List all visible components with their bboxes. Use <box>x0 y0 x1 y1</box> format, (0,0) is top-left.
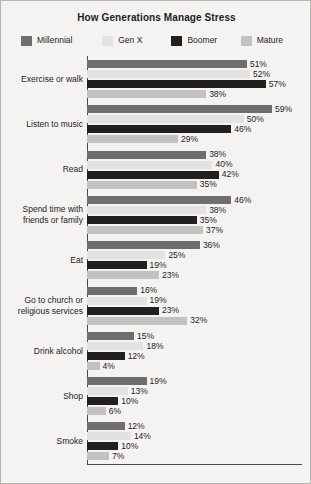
bar-value-label: 6% <box>109 407 121 416</box>
bar-millennial[interactable] <box>87 60 247 68</box>
stress-management-bar-chart: How Generations Manage Stress Millennial… <box>0 0 311 484</box>
legend-item-label: Gen X <box>118 36 142 45</box>
category-label: Smoke <box>1 436 83 447</box>
legend-swatch-icon <box>102 36 113 46</box>
bar-millennial[interactable] <box>87 105 272 113</box>
bar-millennial[interactable] <box>87 151 206 159</box>
bar-mature[interactable] <box>87 181 197 189</box>
bar-gen-x[interactable] <box>87 206 206 214</box>
bar-millennial[interactable] <box>87 377 147 385</box>
bar-millennial[interactable] <box>87 241 200 249</box>
plot-area: 51%52%57%38%59%50%46%29%38%40%42%35%46%3… <box>87 56 310 464</box>
bar-mature[interactable] <box>87 90 206 98</box>
bar-gen-x[interactable] <box>87 387 128 395</box>
bar-gen-x[interactable] <box>87 432 131 440</box>
bar-millennial[interactable] <box>87 287 137 295</box>
bar-mature[interactable] <box>87 452 109 460</box>
bar-row: 12% <box>87 352 145 360</box>
bar-group: 15%18%12%4% <box>87 332 310 370</box>
bar-row: 19% <box>87 261 167 269</box>
category-label-line: Shop <box>1 391 83 402</box>
bar-value-label: 10% <box>121 397 138 406</box>
legend-swatch-icon <box>21 36 32 46</box>
bar-row: 35% <box>87 181 217 189</box>
bar-millennial[interactable] <box>87 422 125 430</box>
bar-boomer[interactable] <box>87 216 197 224</box>
bar-row: 23% <box>87 307 179 315</box>
bar-row: 42% <box>87 171 239 179</box>
bar-value-label: 46% <box>234 125 251 134</box>
bar-row: 32% <box>87 317 207 325</box>
bar-boomer[interactable] <box>87 307 159 315</box>
bar-gen-x[interactable] <box>87 342 143 350</box>
category-label: Listen to music <box>1 119 83 130</box>
bar-value-label: 51% <box>250 60 267 69</box>
bar-mature[interactable] <box>87 317 187 325</box>
bar-boomer[interactable] <box>87 261 147 269</box>
bar-gen-x[interactable] <box>87 115 244 123</box>
bar-row: 35% <box>87 216 217 224</box>
bar-mature[interactable] <box>87 226 203 234</box>
bar-mature[interactable] <box>87 135 178 143</box>
bar-value-label: 36% <box>203 241 220 250</box>
bar-row: 38% <box>87 90 226 98</box>
bar-value-label: 59% <box>275 105 292 114</box>
bar-gen-x[interactable] <box>87 70 250 78</box>
bar-millennial[interactable] <box>87 332 134 340</box>
bar-mature[interactable] <box>87 271 159 279</box>
bar-boomer[interactable] <box>87 397 118 405</box>
bar-mature[interactable] <box>87 407 106 415</box>
bar-value-label: 38% <box>209 90 226 99</box>
legend-item-gen-x[interactable]: Gen X <box>102 34 171 47</box>
chart-title: How Generations Manage Stress <box>1 12 311 23</box>
bar-row: 18% <box>87 342 163 350</box>
bar-gen-x[interactable] <box>87 251 165 259</box>
legend-item-mature[interactable]: Mature <box>241 34 296 47</box>
bar-boomer[interactable] <box>87 171 219 179</box>
bar-mature[interactable] <box>87 362 100 370</box>
category-label: Shop <box>1 391 83 402</box>
bar-value-label: 50% <box>247 115 264 124</box>
category-label: Spend time withfriends or family <box>1 204 83 225</box>
bar-boomer[interactable] <box>87 442 118 450</box>
bar-boomer[interactable] <box>87 352 125 360</box>
category-label-column: Exercise or walkListen to musicReadSpend… <box>1 56 83 464</box>
category-label-line: Go to church or <box>1 295 83 306</box>
bar-boomer[interactable] <box>87 80 266 88</box>
bar-millennial[interactable] <box>87 196 231 204</box>
bar-row: 4% <box>87 362 115 370</box>
bar-row: 13% <box>87 387 148 395</box>
bar-row: 50% <box>87 115 264 123</box>
bar-group: 38%40%42%35% <box>87 151 310 189</box>
bar-group: 59%50%46%29% <box>87 105 310 143</box>
legend-item-label: Mature <box>257 36 283 45</box>
bar-row: 40% <box>87 161 232 169</box>
bar-value-label: 32% <box>190 316 207 325</box>
bar-boomer[interactable] <box>87 125 231 133</box>
bar-gen-x[interactable] <box>87 161 212 169</box>
bar-group: 51%52%57%38% <box>87 60 310 98</box>
bar-value-label: 38% <box>209 150 226 159</box>
bar-group: 19%13%10%6% <box>87 377 310 415</box>
bar-row: 19% <box>87 377 167 385</box>
bar-row: 16% <box>87 287 157 295</box>
bar-value-label: 57% <box>269 80 286 89</box>
bar-value-label: 35% <box>200 216 217 225</box>
category-label: Eat <box>1 255 83 266</box>
bar-row: 57% <box>87 80 286 88</box>
bar-row: 37% <box>87 226 223 234</box>
bar-value-label: 13% <box>131 387 148 396</box>
bar-row: 10% <box>87 397 138 405</box>
bar-row: 29% <box>87 135 198 143</box>
bar-value-label: 19% <box>150 261 167 270</box>
bar-gen-x[interactable] <box>87 297 147 305</box>
category-label-line: Eat <box>1 255 83 266</box>
legend-item-boomer[interactable]: Boomer <box>171 34 240 47</box>
bar-value-label: 19% <box>150 296 167 305</box>
legend-swatch-icon <box>171 36 182 46</box>
legend-item-millennial[interactable]: Millennial <box>21 34 102 47</box>
category-label-line: Drink alcohol <box>1 346 83 357</box>
bar-row: 51% <box>87 60 267 68</box>
bar-value-label: 29% <box>181 135 198 144</box>
bar-row: 38% <box>87 206 226 214</box>
